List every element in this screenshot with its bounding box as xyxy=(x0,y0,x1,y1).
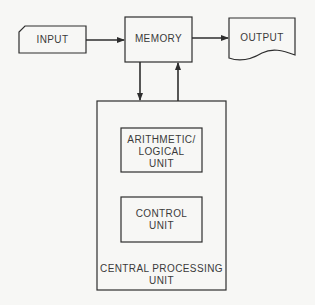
control-label-line1: CONTROL xyxy=(121,208,202,220)
alu-label-line2: LOGICAL xyxy=(121,146,202,158)
control-label: CONTROL UNIT xyxy=(121,208,202,232)
cpu-label: CENTRAL PROCESSING UNIT xyxy=(97,263,226,287)
input-label: INPUT xyxy=(19,34,86,46)
alu-label: ARITHMETIC/ LOGICAL UNIT xyxy=(121,134,202,170)
cpu-label-line2: UNIT xyxy=(97,275,226,287)
memory-label: MEMORY xyxy=(125,33,192,45)
alu-label-line1: ARITHMETIC/ xyxy=(121,134,202,146)
cpu-box xyxy=(97,101,226,290)
output-label: OUTPUT xyxy=(229,32,295,44)
cpu-label-line1: CENTRAL PROCESSING xyxy=(97,263,226,275)
control-label-line2: UNIT xyxy=(121,220,202,232)
alu-label-line3: UNIT xyxy=(121,158,202,170)
